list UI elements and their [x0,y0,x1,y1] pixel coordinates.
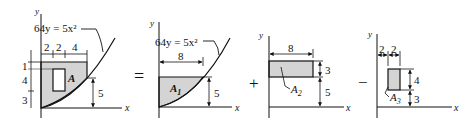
x-axis-label: x [234,102,240,113]
y-axis-label: y [258,30,263,40]
y-axis-label: y [34,6,39,16]
dim-5: 5 [325,86,331,98]
composite-shape-panel: x y 64y = 5x² 2 2 4 1 4 3 A 5 [22,6,130,118]
area-label-A: A [67,72,75,84]
dim-3: 3 [325,64,331,76]
composite-area-diagram: x y 64y = 5x² 2 2 4 1 4 3 A 5 = x y 6 [0,0,471,125]
part1-panel: x y 64y = 5x² 8 A1 5 [149,18,240,118]
equation-leader-curve [96,29,103,52]
part3-panel: x y 2 2 4 3 A3 [367,29,459,118]
hole-rectangle [53,69,65,91]
dim-3: 3 [414,93,420,105]
x-axis-label: x [453,102,459,113]
curve-equation: 64y = 5x² [155,36,198,48]
dim-1: 1 [22,60,28,72]
dim-4: 4 [414,74,420,86]
A3-rectangle [388,69,400,90]
dim-8: 8 [178,50,184,62]
dim-2b: 2 [56,41,62,53]
dim-2a: 2 [379,43,385,55]
A2-rectangle [269,61,313,77]
area-label-A2: A2 [290,83,302,98]
dim-2a: 2 [44,41,50,53]
dim-8: 8 [288,42,294,54]
x-axis-label: x [345,102,351,113]
dim-5: 5 [98,87,104,99]
part2-panel: x y 8 3 5 A2 [258,30,351,118]
area-label-A3: A3 [389,91,401,106]
curve-equation: 64y = 5x² [34,22,77,34]
x-axis-label: x [124,102,130,113]
dim-3: 3 [22,94,28,106]
dim-5: 5 [214,87,220,99]
dim-4-top: 4 [72,41,78,53]
dim-2b: 2 [391,43,397,55]
dim-4-left: 4 [22,74,28,86]
y-axis-label: y [149,18,154,28]
equals-operator: = [134,66,144,86]
minus-operator: − [358,73,368,92]
plus-operator: + [249,74,259,93]
y-axis-label: y [367,29,372,39]
